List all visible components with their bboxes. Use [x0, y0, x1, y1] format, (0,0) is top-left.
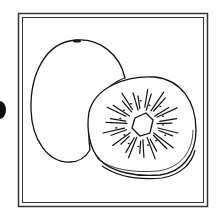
seed — [130, 103, 132, 105]
seed — [162, 116, 164, 118]
seed — [123, 134, 125, 136]
kiwi-illustration — [0, 0, 216, 217]
seed — [119, 118, 121, 120]
kiwi-slice — [88, 77, 196, 179]
seed — [159, 106, 161, 108]
seed — [148, 105, 150, 107]
seed — [123, 110, 125, 112]
seed — [128, 143, 130, 145]
seed — [155, 140, 157, 142]
seed — [162, 124, 164, 126]
seed — [147, 144, 149, 146]
seed — [140, 100, 142, 102]
seed-ray — [157, 123, 172, 124]
seed — [115, 127, 117, 129]
seed — [164, 134, 166, 136]
kiwi-stem-end — [73, 39, 81, 42]
edge-dot — [0, 101, 6, 119]
seed — [137, 146, 139, 148]
